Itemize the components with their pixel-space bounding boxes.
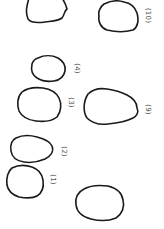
blob-1	[7, 166, 44, 198]
label-9: (9)	[144, 104, 151, 115]
label-1: (1)	[49, 174, 56, 185]
blob-4	[32, 56, 66, 82]
blob-10	[99, 1, 138, 32]
label-4: (4)	[73, 63, 80, 74]
blob-outlines	[0, 0, 164, 229]
blob-2	[11, 136, 53, 163]
label-10: (10)	[144, 8, 151, 23]
label-2: (2)	[60, 146, 67, 157]
blob-unlabeled-top	[26, 0, 67, 23]
blob-unlabeled-bottom	[76, 185, 124, 220]
blob-9	[84, 89, 138, 125]
blob-3	[18, 88, 61, 122]
label-3: (3)	[67, 97, 74, 108]
outline-figure: (10) (4) (3) (9) (2) (1)	[0, 0, 164, 229]
